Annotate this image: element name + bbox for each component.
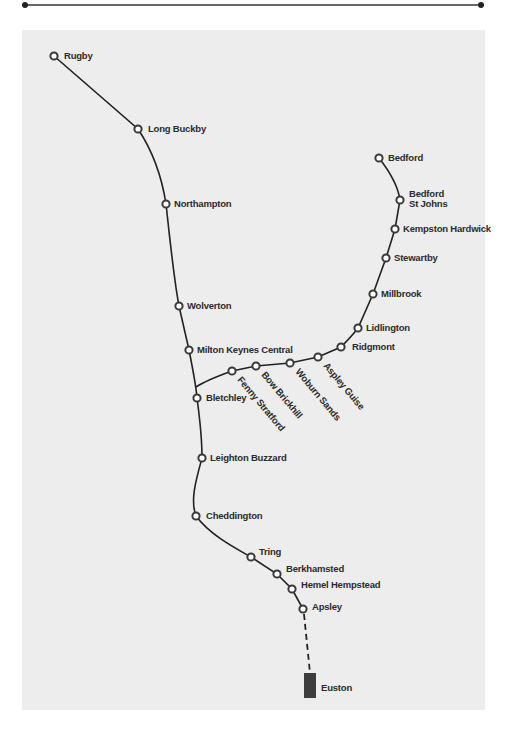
station-label-cheddington: Cheddington [206,510,263,521]
station-label-stewartby: Stewartby [394,252,439,263]
station-label-long-buckby: Long Buckby [148,123,207,134]
station-marker-fenny-stratford [228,367,235,374]
station-label-bletchley: Bletchley [206,392,247,403]
station-label-wolverton: Wolverton [187,300,232,311]
station-marker-woburn-sands [286,359,293,366]
station-marker-berkhamsted [273,570,280,577]
station-label-hemel-hempstead: Hemel Hempstead [301,579,381,590]
station-label-berkhamsted: Berkhamsted [286,563,344,574]
station-marker-bedford [375,154,382,161]
station-label-northampton: Northampton [174,198,232,209]
station-marker-aspley-guise [314,353,321,360]
station-marker-milton-keynes-central [185,346,192,353]
euston-approach-track [304,614,310,673]
station-label-millbrook: Millbrook [381,288,422,299]
station-marker-hemel-hempstead [288,585,295,592]
station-marker-leighton-buzzard [198,454,205,461]
station-label-tring: Tring [259,546,282,557]
station-marker-cheddington [192,512,199,519]
station-marker-kempston-hardwick [391,225,398,232]
station-marker-rugby [50,52,57,59]
station-marker-bletchley [193,394,200,401]
rail-map: RugbyLong BuckbyNorthamptonWolvertonMilt… [0,0,509,731]
station-marker-wolverton [175,302,182,309]
station-marker-apsley [299,605,306,612]
station-label-lidlington: Lidlington [366,322,410,333]
station-label-apsley: Apsley [312,601,343,612]
station-marker-tring [247,553,254,560]
station-marker-ridgmont [337,343,344,350]
station-label-euston: Euston [321,682,352,693]
station-marker-long-buckby [134,125,141,132]
station-label-ridgmont: Ridgmont [352,341,396,352]
main-line-track [54,56,303,609]
station-marker-bedford-st-johns [396,196,403,203]
station-label-leighton-buzzard: Leighton Buzzard [210,452,287,463]
station-label-bedford-st-johns-line2: St Johns [409,198,448,209]
station-marker-stewartby [382,254,389,261]
station-label-milton-keynes-central: Milton Keynes Central [197,344,293,355]
station-marker-bow-brickhill [252,362,259,369]
station-label-rugby: Rugby [64,50,93,61]
station-label-bedford: Bedford [388,152,423,163]
station-marker-northampton [162,200,169,207]
euston-terminus-block [304,673,316,698]
station-marker-lidlington [354,324,361,331]
station-label-kempston-hardwick: Kempston Hardwick [403,223,492,234]
station-marker-millbrook [369,290,376,297]
